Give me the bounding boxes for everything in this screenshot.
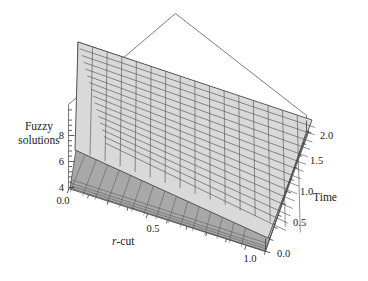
rcut-axis-label-rest: -cut <box>116 235 135 247</box>
rcut-tick-0: 0.0 <box>56 195 69 206</box>
plot-canvas: Fuzzy solutions 8 6 4 0.0 0.5 1.0 r-cut … <box>0 0 368 281</box>
surface-plot-figure: Fuzzy solutions 8 6 4 0.0 0.5 1.0 r-cut … <box>0 0 368 281</box>
vertical-axis-label-line2: solutions <box>18 134 60 146</box>
vertical-tick-4: 4 <box>59 182 65 193</box>
vertical-tick-8: 8 <box>59 130 64 141</box>
vertical-tick-6: 6 <box>59 156 64 167</box>
time-axis-label: Time <box>313 191 337 203</box>
rcut-tick-1: 1.0 <box>243 253 256 264</box>
time-tick-1: 1.0 <box>300 186 313 197</box>
rcut-axis-label: r-cut <box>112 235 135 247</box>
time-tick-0p5: 0.5 <box>293 217 306 228</box>
rcut-tick-half: 0.5 <box>146 223 159 234</box>
vertical-axis-label-line1: Fuzzy <box>25 120 53 133</box>
time-tick-2: 2.0 <box>320 130 333 141</box>
time-tick-0: 0.0 <box>277 248 290 259</box>
time-tick-1p5: 1.5 <box>310 155 323 166</box>
